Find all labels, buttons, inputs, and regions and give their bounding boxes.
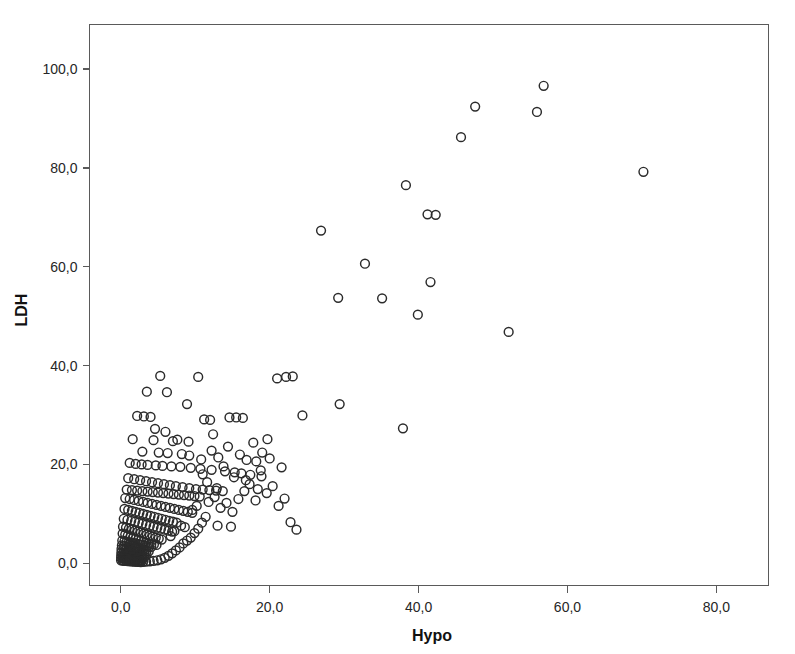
data-point (207, 465, 216, 474)
data-point (399, 424, 408, 433)
y-axis-title: LDH (13, 294, 30, 327)
data-point (154, 448, 163, 457)
data-point (426, 278, 435, 287)
x-axis-ticks: 0,020,040,060,080,0 (111, 586, 730, 615)
data-point (539, 81, 548, 90)
y-tick-label: 80,0 (50, 160, 77, 176)
scatter-svg-canvas: 0,020,040,060,080,0100,0 0,020,040,060,0… (0, 0, 795, 654)
data-point (263, 435, 272, 444)
x-tick-label: 60,0 (554, 599, 581, 615)
data-point (207, 446, 216, 455)
data-point (234, 495, 243, 504)
data-point (639, 167, 648, 176)
data-point (265, 454, 274, 463)
data-point (413, 310, 422, 319)
data-point (280, 494, 289, 503)
data-point (277, 463, 286, 472)
data-point (334, 293, 343, 302)
data-point (471, 102, 480, 111)
data-point (214, 453, 223, 462)
data-point (194, 373, 203, 382)
data-point (184, 437, 193, 446)
data-point (256, 466, 265, 475)
data-point (431, 210, 440, 219)
data-point (198, 470, 207, 479)
y-tick-label: 100,0 (42, 61, 77, 77)
data-point (149, 436, 158, 445)
data-point (196, 464, 205, 473)
data-point (273, 374, 282, 383)
data-point (228, 507, 237, 516)
y-axis-ticks: 0,020,040,060,080,0100,0 (42, 61, 89, 571)
data-point (219, 462, 228, 471)
data-point (286, 518, 295, 527)
data-point (143, 461, 152, 470)
y-tick-label: 40,0 (50, 358, 77, 374)
data-point (249, 438, 258, 447)
data-point (317, 226, 326, 235)
data-point (504, 328, 513, 337)
data-point-layer (117, 81, 648, 566)
data-point (158, 461, 167, 470)
data-point (176, 462, 185, 471)
data-point (186, 463, 195, 472)
x-axis-title: Hypo (412, 627, 452, 644)
data-point (533, 108, 542, 117)
data-point (252, 457, 261, 466)
x-tick-label: 0,0 (111, 599, 131, 615)
data-point (423, 210, 432, 219)
data-point (163, 449, 172, 458)
data-point (292, 525, 301, 534)
data-point (167, 462, 176, 471)
x-tick-label: 20,0 (256, 599, 283, 615)
data-point (268, 482, 277, 491)
y-tick-label: 20,0 (50, 456, 77, 472)
data-point (222, 499, 231, 508)
data-point (227, 522, 236, 531)
data-point (146, 413, 155, 422)
data-point (216, 504, 225, 513)
data-point (235, 450, 244, 459)
data-point (457, 133, 466, 142)
data-point (209, 430, 218, 439)
data-point (204, 498, 213, 507)
data-point (138, 447, 147, 456)
data-point (378, 294, 387, 303)
data-point (335, 400, 344, 409)
x-tick-label: 80,0 (703, 599, 730, 615)
data-point (183, 400, 192, 409)
data-point (142, 387, 151, 396)
x-tick-label: 40,0 (405, 599, 432, 615)
plot-frame (90, 25, 769, 586)
data-point (361, 259, 370, 268)
data-point (402, 181, 411, 190)
y-tick-label: 0,0 (58, 555, 78, 571)
data-point (128, 435, 137, 444)
data-point (161, 427, 170, 436)
y-tick-label: 60,0 (50, 259, 77, 275)
data-point (238, 414, 247, 423)
scatterplot-chart: 0,020,040,060,080,0100,0 0,020,040,060,0… (0, 0, 795, 654)
data-point (282, 373, 291, 382)
data-point (197, 455, 206, 464)
data-point (274, 502, 283, 511)
data-point (251, 496, 260, 505)
data-point (258, 448, 267, 457)
data-point (156, 372, 165, 381)
data-point (224, 442, 233, 451)
data-point (206, 416, 215, 425)
data-point (163, 388, 172, 397)
data-point (210, 493, 219, 502)
data-point (253, 485, 262, 494)
data-point (151, 424, 160, 433)
data-point (213, 521, 222, 530)
data-point (298, 411, 307, 420)
